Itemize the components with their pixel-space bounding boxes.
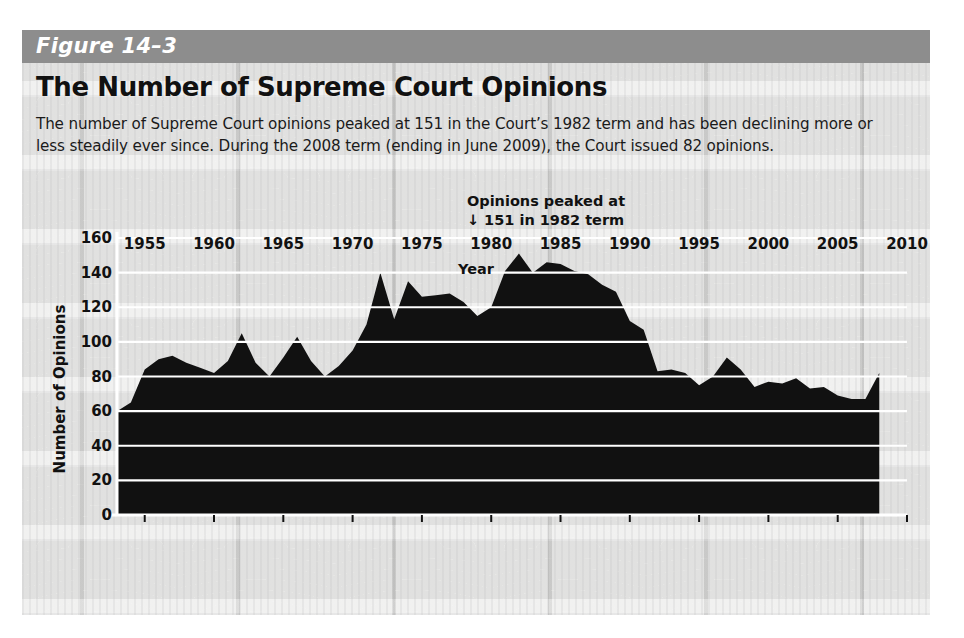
x-tick-label-1980: 1980	[470, 235, 512, 253]
opinions-area-chart: Number of Opinions 020406080100120140160…	[22, 230, 930, 615]
x-tick-label-1955: 1955	[124, 235, 166, 253]
figure-title: The Number of Supreme Court Opinions	[36, 72, 607, 102]
x-tick-label-2005: 2005	[817, 235, 859, 253]
y-tick-label-60: 60	[66, 402, 112, 420]
y-tick-label-80: 80	[66, 368, 112, 386]
peak-annotation-line1: Opinions peaked at	[467, 192, 625, 211]
x-tick-label-1985: 1985	[540, 235, 582, 253]
data-area-series	[117, 254, 879, 515]
peak-annotation: Opinions peaked at↓ 151 in 1982 term	[467, 192, 625, 230]
y-tick-label-120: 120	[66, 298, 112, 316]
figure-number-band: Figure 14–3	[22, 30, 930, 63]
peak-annotation-line2: ↓ 151 in 1982 term	[467, 211, 625, 230]
x-tick-label-1960: 1960	[193, 235, 235, 253]
x-tick-label-1995: 1995	[678, 235, 720, 253]
x-tick-label-1970: 1970	[332, 235, 374, 253]
y-axis-ticks: 020406080100120140160	[64, 230, 112, 615]
x-tick-label-2010: 2010	[886, 235, 928, 253]
x-tick-label-1965: 1965	[262, 235, 304, 253]
x-tick-label-2000: 2000	[748, 235, 790, 253]
x-tick-label-1975: 1975	[401, 235, 443, 253]
x-axis-title: Year	[22, 261, 930, 277]
figure-number-label: Figure 14–3	[36, 34, 177, 58]
y-tick-label-160: 160	[66, 229, 112, 247]
x-tick-label-1990: 1990	[609, 235, 651, 253]
figure-caption: The number of Supreme Court opinions pea…	[36, 114, 906, 157]
y-tick-label-40: 40	[66, 437, 112, 455]
y-tick-label-0: 0	[66, 506, 112, 524]
figure-container: Figure 14–3 The Number of Supreme Court …	[22, 30, 930, 615]
y-tick-label-100: 100	[66, 333, 112, 351]
y-tick-label-20: 20	[66, 471, 112, 489]
